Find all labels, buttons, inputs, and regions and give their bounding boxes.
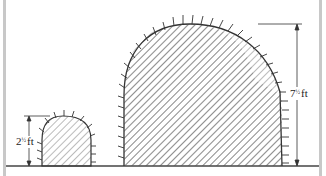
tunnel-diagram: 2½ft: [0, 0, 326, 176]
large-tunnel: 7½ft: [118, 15, 318, 166]
small-tunnel: 2½ft: [15, 110, 96, 166]
